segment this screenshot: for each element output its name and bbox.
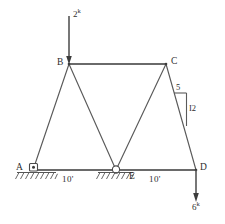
load-label-6k-unit: k: [197, 200, 200, 207]
joint-label-D: D: [200, 163, 207, 173]
joint-dot-C: [165, 63, 168, 66]
slope-run-label: 5: [176, 83, 180, 92]
member-A-B: [33, 64, 69, 170]
load-arrow-2k: [66, 16, 72, 65]
load-label-2k: 2k: [73, 10, 81, 19]
dimension-label-span-ed: 10': [149, 175, 161, 184]
joint-label-A: A: [16, 163, 23, 173]
joint-label-E: E: [129, 172, 135, 182]
load-label-6k: 6k: [192, 203, 200, 212]
ground-hatching-A: [16, 173, 58, 180]
joint-markers: [68, 63, 198, 172]
support-pin-A: [30, 164, 38, 172]
member-B-E: [69, 64, 116, 170]
pin-support-pin: [32, 166, 35, 169]
truss-diagram: A B C D E 10' 10' 5 I2 2k 6k: [0, 0, 225, 224]
load-label-2k-unit: k: [78, 7, 81, 14]
joint-label-C: C: [171, 57, 177, 67]
joint-label-B: B: [57, 58, 63, 68]
dimension-label-span-ae: 10': [62, 175, 74, 184]
load-arrow-6k: [193, 170, 199, 202]
member-E-C: [116, 64, 166, 170]
slope-rise-label: I2: [189, 104, 196, 113]
member-C-D: [166, 64, 196, 170]
truss-members: [33, 64, 196, 170]
